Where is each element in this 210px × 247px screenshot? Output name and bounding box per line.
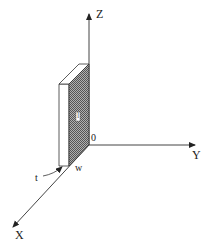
width-label: w [75, 163, 82, 173]
origin-label: 0 [91, 133, 96, 143]
face-label: l [77, 112, 79, 120]
slab-side-face [59, 84, 69, 166]
thickness-pointer-arrow [43, 167, 62, 176]
thickness-label: t [35, 173, 38, 183]
z-axis-label: Z [96, 8, 103, 20]
x-axis-label: X [15, 229, 24, 241]
coordinate-diagram [0, 0, 210, 247]
y-axis-label: Y [192, 149, 201, 161]
